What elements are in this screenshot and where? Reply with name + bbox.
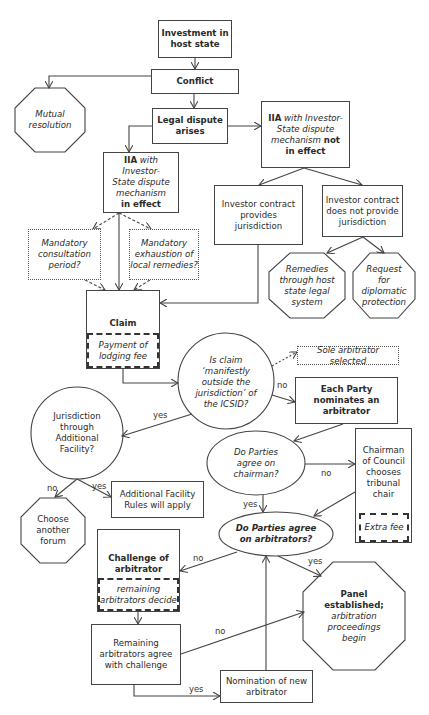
investment-line1: Investment in [161, 28, 228, 39]
mo-line5: the ICSID? [204, 399, 249, 410]
pe-ital3: begin [342, 633, 366, 644]
jurisdiction-af-node: Jurisdiction through Additional Facility… [35, 393, 119, 473]
mutual-resolution-node: Mutual resolution [15, 88, 85, 152]
cc-line4: tribunal [362, 478, 405, 489]
label-af-yes: yes [92, 481, 106, 491]
rem-line1: Remedies [286, 264, 329, 275]
ac-line3: chairman? [233, 469, 278, 480]
mandatory-exhaustion-box: Mandatory exhaustion of local remedies? [129, 229, 199, 280]
iia-e-bold1: IIA [124, 155, 137, 165]
contract-not-provides-box: Investor contract does not provide juris… [322, 185, 403, 237]
iia-ne-ital1: with Investor- [281, 113, 342, 123]
cp-line1: Investor contract [222, 199, 295, 210]
legal-dispute-box: Legal dispute arises [152, 108, 228, 144]
agree-chairman-node: Do Parties agree on chairman? [210, 440, 302, 486]
pe-bold1: Panel [341, 589, 368, 600]
claim-box: Claim Payment of lodging fee [86, 290, 160, 369]
ra-line1: Remaining [113, 638, 159, 649]
afr-line2: Rules will apply [124, 500, 191, 511]
contract-provides-box: Investor contract provides jurisdiction [214, 185, 303, 245]
mo-line1: Is claim [210, 355, 243, 366]
ra-line3: with challenge [105, 660, 168, 671]
each-party-nominates-box: Each Party nominates an arbitrator [295, 377, 398, 424]
nomination-new-box: Nomination of new arbitrator [220, 670, 313, 703]
mutual-line2: resolution [29, 120, 72, 131]
me-line3: local remedies? [130, 260, 197, 271]
pe-bold2: established; [324, 600, 384, 611]
challenge-box: Challenge of arbitrator remaining arbitr… [97, 529, 180, 612]
iia-e-ital2: State dispute [112, 177, 169, 188]
af-line2: another [36, 525, 70, 536]
iia-ne-bold3: in effect [286, 146, 326, 157]
nn-line1: Nomination of new [226, 676, 307, 687]
jaf-line1: Jurisdiction [53, 411, 100, 422]
label-arbitrators-no: no [193, 553, 203, 563]
cnp-line2: does not provide [326, 206, 398, 217]
aa-line1: Do Parties agree [236, 523, 317, 534]
claim-sub1: Payment of [98, 340, 147, 351]
jaf-line3: Additional [55, 433, 98, 444]
aa-line2: on arbitrators? [240, 534, 313, 545]
af-rules-box: Additional Facility Rules will apply [111, 481, 204, 518]
ch-sub2: arbitrators decide [100, 595, 177, 606]
sole-arbitrator-box: Sole arbitrator selected [297, 346, 399, 365]
me-line2: exhaustion of [135, 249, 194, 260]
another-forum-node: Choose another forum [21, 498, 85, 563]
ac-line1: Do Parties [234, 447, 278, 458]
mo-line4: jurisdiction’ of [195, 388, 256, 399]
investment-line2: host state [170, 39, 219, 50]
mc-line3: period? [49, 260, 81, 271]
lodging-fee-box: Payment of lodging fee [87, 333, 159, 368]
manifestly-outside-node: Is claim ‘manifestly outside the jurisdi… [180, 340, 272, 424]
rem-line3: state legal [284, 286, 329, 297]
chairman-text: Chairman of Council chooses tribunal cha… [362, 445, 405, 500]
mutual-line1: Mutual [35, 109, 64, 120]
af-line1: Choose [37, 514, 69, 525]
label-manifest-yes: yes [153, 410, 167, 420]
dip-line4: protection [362, 297, 406, 308]
iia-e-ital3: mechanism [116, 188, 166, 199]
cnp-line3: jurisdiction [339, 217, 386, 228]
mc-line2: consultation [38, 249, 91, 260]
panel-established-node: Panel established; arbitration proceedin… [303, 562, 405, 670]
iia-e-row1: IIA with Investor- [104, 155, 178, 177]
chairman-council-box: Chairman of Council chooses tribunal cha… [355, 428, 412, 543]
label-chairman-yes: yes [243, 499, 257, 509]
legal-line2: arises [175, 126, 204, 137]
conflict-box: Conflict [151, 69, 239, 94]
afr-line1: Additional Facility [120, 489, 196, 500]
ep-line2: nominates an [314, 395, 380, 406]
me-line1: Mandatory [141, 238, 187, 249]
dip-line2: for [378, 275, 390, 286]
label-arbitrators-yes: yes [308, 556, 322, 566]
dip-line3: diplomatic [361, 286, 406, 297]
iia-in-effect-box: IIA with Investor- State dispute mechani… [103, 152, 179, 213]
mandatory-consultation-box: Mandatory consultation period? [28, 229, 101, 280]
ra-line2: arbitrators agree [100, 649, 173, 660]
claim-sub2: lodging fee [99, 351, 147, 362]
iia-ne-row1: IIA with Investor- [268, 113, 342, 124]
diplomatic-protection-node: Request for diplomatic protection [353, 253, 415, 318]
ep-line3: arbitrator [323, 406, 371, 417]
pe-ital1: arbitration [331, 611, 376, 622]
rem-line4: system [291, 297, 322, 308]
label-manifest-no: no [277, 380, 287, 390]
conflict-label: Conflict [177, 76, 214, 87]
iia-ne-bold1: IIA [268, 113, 281, 123]
iia-ne-bold2: not [321, 135, 340, 145]
iia-ne-ital2: State dispute [277, 124, 334, 135]
label-remaining-no: no [215, 626, 225, 636]
label-chairman-no: no [321, 468, 331, 478]
cnp-line1: Investor contract [326, 195, 399, 206]
ep-line1: Each Party [321, 384, 373, 395]
mc-line1: Mandatory [41, 238, 87, 249]
nn-line2: arbitrator [246, 687, 287, 698]
remaining-agree-box: Remaining arbitrators agree with challen… [91, 624, 181, 685]
iia-ne-ital3: mechanism [271, 135, 321, 145]
ac-line2: agree on [237, 458, 275, 469]
dip-line1: Request [366, 264, 401, 275]
pe-ital2: proceedings [328, 622, 381, 633]
ch-line2: arbitrator [115, 564, 163, 575]
agree-arbitrators-node: Do Parties agree on arbitrators? [222, 518, 330, 550]
ch-line1: Challenge of [108, 553, 169, 564]
